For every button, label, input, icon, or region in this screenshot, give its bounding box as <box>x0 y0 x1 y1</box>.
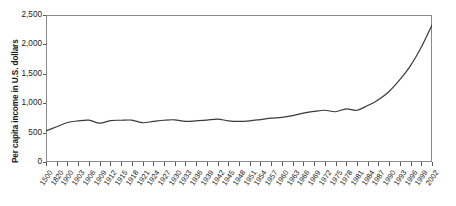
x-tick-label: 1963 <box>282 169 301 192</box>
x-tick-mark <box>185 162 186 166</box>
x-tick-label: 1912 <box>100 169 119 192</box>
x-tick-mark <box>110 162 111 166</box>
x-tick-label: 1936 <box>185 169 204 192</box>
x-tick-label: 1918 <box>121 169 140 192</box>
x-tick-label: 1933 <box>175 169 194 192</box>
x-tick-label: 1909 <box>89 169 108 192</box>
x-tick-mark <box>132 162 133 166</box>
x-tick-mark <box>378 162 379 166</box>
x-tick-label: 1981 <box>346 169 365 192</box>
line-series-per-capita-income <box>46 15 432 162</box>
x-tick-mark <box>400 162 401 166</box>
x-tick-mark <box>432 162 433 166</box>
y-tick-label: 0 <box>0 157 42 167</box>
x-tick-mark <box>207 162 208 166</box>
x-tick-label: 1951 <box>239 169 258 192</box>
x-tick-mark <box>250 162 251 166</box>
x-tick-label: 1993 <box>389 169 408 192</box>
x-tick-label: 1820 <box>46 169 65 192</box>
x-tick-label: 1903 <box>68 169 87 192</box>
x-tick-label: 1939 <box>196 169 215 192</box>
x-tick-label: 1984 <box>357 169 376 192</box>
x-tick-mark <box>421 162 422 166</box>
x-tick-mark <box>196 162 197 166</box>
x-tick-label: 1900 <box>57 169 76 192</box>
x-tick-mark <box>368 162 369 166</box>
x-tick-label: 1969 <box>303 169 322 192</box>
x-tick-label: 1972 <box>314 169 333 192</box>
x-tick-label: 2002 <box>421 169 440 192</box>
x-tick-label: 1924 <box>143 169 162 192</box>
x-tick-mark <box>239 162 240 166</box>
x-tick-mark <box>218 162 219 166</box>
y-tick-label: 500 <box>0 128 42 138</box>
x-tick-mark <box>271 162 272 166</box>
y-tick-label: 1,000 <box>0 98 42 108</box>
x-tick-label: 1906 <box>78 169 97 192</box>
x-tick-label: 1960 <box>271 169 290 192</box>
y-tick-label: 1,500 <box>0 69 42 79</box>
x-tick-label: 1945 <box>218 169 237 192</box>
x-tick-label: 1978 <box>336 169 355 192</box>
x-tick-mark <box>260 162 261 166</box>
x-tick-mark <box>282 162 283 166</box>
x-tick-mark <box>100 162 101 166</box>
x-tick-mark <box>175 162 176 166</box>
x-tick-label: 1927 <box>153 169 172 192</box>
chart-screenshot: Per capita income in U.S. dollars 2,5002… <box>0 0 456 206</box>
x-tick-mark <box>303 162 304 166</box>
y-axis-title: Per capita income in U.S. dollars <box>9 3 23 163</box>
x-tick-mark <box>78 162 79 166</box>
x-tick-mark <box>293 162 294 166</box>
x-tick-label: 1996 <box>400 169 419 192</box>
x-tick-label: 1500 <box>35 169 54 192</box>
x-tick-label: 1990 <box>378 169 397 192</box>
x-tick-mark <box>153 162 154 166</box>
x-tick-mark <box>314 162 315 166</box>
y-tick-label: 2,500 <box>0 10 42 20</box>
x-tick-mark <box>336 162 337 166</box>
x-tick-label: 1930 <box>164 169 183 192</box>
x-tick-mark <box>357 162 358 166</box>
x-tick-label: 1954 <box>250 169 269 192</box>
x-tick-mark <box>67 162 68 166</box>
y-tick-label: 2,000 <box>0 39 42 49</box>
x-tick-mark <box>89 162 90 166</box>
x-tick-label: 1921 <box>132 169 151 192</box>
x-tick-mark <box>325 162 326 166</box>
x-tick-label: 1948 <box>228 169 247 192</box>
x-tick-label: 1999 <box>411 169 430 192</box>
x-tick-label: 1966 <box>293 169 312 192</box>
x-tick-label: 1975 <box>325 169 344 192</box>
x-tick-label: 1942 <box>207 169 226 192</box>
x-tick-mark <box>164 162 165 166</box>
x-tick-mark <box>389 162 390 166</box>
x-tick-mark <box>57 162 58 166</box>
x-tick-mark <box>121 162 122 166</box>
x-tick-mark <box>346 162 347 166</box>
y-tick-mark <box>43 162 47 163</box>
x-tick-label: 1915 <box>110 169 129 192</box>
x-tick-mark <box>228 162 229 166</box>
x-tick-label: 1957 <box>261 169 280 192</box>
x-tick-mark <box>411 162 412 166</box>
x-tick-label: 1987 <box>368 169 387 192</box>
x-tick-mark <box>143 162 144 166</box>
